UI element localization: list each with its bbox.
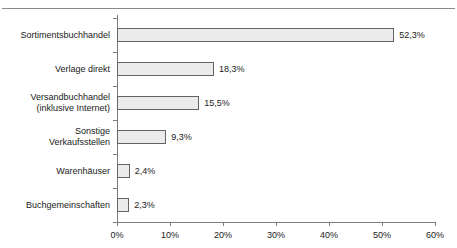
- value-axis-tick: [170, 222, 171, 226]
- value-axis-tick: [382, 222, 383, 226]
- value-axis-tick: [329, 222, 330, 226]
- category-label: Verlage direkt: [0, 64, 110, 75]
- value-axis-tick: [117, 222, 118, 226]
- bar-row: Sonstige Verkaufsstellen9,3%: [0, 120, 457, 154]
- bar: [117, 28, 394, 42]
- value-axis-tick-label: 20%: [203, 230, 243, 240]
- category-label: Buchgemeinschaften: [0, 200, 110, 211]
- bar-row: Verlage direkt18,3%: [0, 52, 457, 86]
- category-label: Versandbuchhandel (inklusive Internet): [0, 92, 110, 114]
- bar: [117, 130, 166, 144]
- value-axis-tick: [276, 222, 277, 226]
- bar-value-label: 15,5%: [204, 98, 230, 108]
- value-axis-tick: [435, 222, 436, 226]
- bar-row: Buchgemeinschaften2,3%: [0, 188, 457, 222]
- bar: [117, 164, 130, 178]
- top-divider-rule: [2, 8, 455, 9]
- value-axis-tick-label: 10%: [150, 230, 190, 240]
- bar: [117, 62, 214, 76]
- bar-value-label: 2,4%: [135, 166, 156, 176]
- category-label: Sonstige Verkaufsstellen: [0, 126, 110, 148]
- value-axis-tick-label: 30%: [256, 230, 296, 240]
- value-axis-tick-label: 0%: [97, 230, 137, 240]
- bar-row: Warenhäuser2,4%: [0, 154, 457, 188]
- bar-value-label: 18,3%: [219, 64, 245, 74]
- bar: [117, 96, 199, 110]
- bar-value-label: 9,3%: [171, 132, 192, 142]
- value-axis-tick-label: 40%: [309, 230, 349, 240]
- bar-chart: 0%10%20%30%40%50%60% Sortimentsbuchhande…: [0, 0, 457, 248]
- bar-value-label: 2,3%: [134, 200, 155, 210]
- value-axis-tick: [223, 222, 224, 226]
- value-axis-tick-label: 50%: [362, 230, 402, 240]
- bar: [117, 198, 129, 212]
- bar-row: Sortimentsbuchhandel52,3%: [0, 18, 457, 52]
- bar-row: Versandbuchhandel (inklusive Internet)15…: [0, 86, 457, 120]
- bar-value-label: 52,3%: [399, 30, 425, 40]
- category-label: Warenhäuser: [0, 166, 110, 177]
- category-label: Sortimentsbuchhandel: [0, 30, 110, 41]
- value-axis-tick-label: 60%: [415, 230, 455, 240]
